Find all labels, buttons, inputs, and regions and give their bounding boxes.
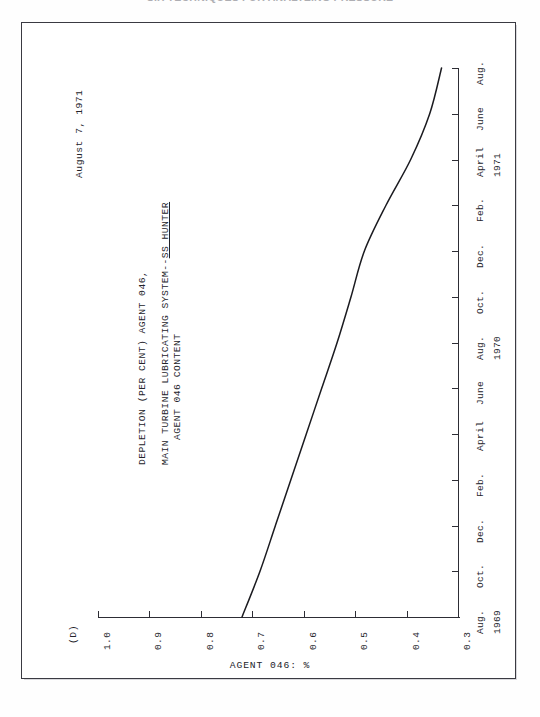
- scanned-page-surface: SIX TECHNIQUES FOR ANALYZING PRESSURE Au…: [0, 0, 540, 717]
- depletion-curve: [242, 68, 442, 617]
- depletion-curve-svg: [0, 0, 540, 717]
